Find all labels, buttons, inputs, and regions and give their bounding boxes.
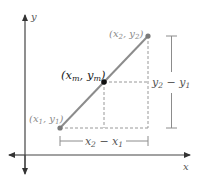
- horizontal-bracket-label: x2 − x1: [85, 135, 123, 149]
- vertical-bracket-label: y2 − y1: [151, 76, 190, 90]
- y-axis-label: y: [30, 11, 37, 22]
- midpoint-label: (xm, ym): [61, 68, 105, 83]
- axes: y x: [9, 11, 190, 174]
- endpoint-1-dot: [57, 125, 62, 130]
- x-axis-label: x: [183, 161, 189, 172]
- endpoint-2-dot: [145, 33, 150, 38]
- endpoint-1-label: (x1, y1): [29, 113, 64, 126]
- midpoint-diagram: y x (x1, y1) (x2, y2) (xm, ym) x2 − x1: [0, 0, 199, 180]
- endpoint-2-label: (x2, y2): [109, 28, 144, 41]
